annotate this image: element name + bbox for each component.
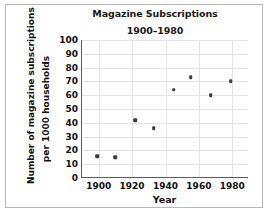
y-tick-label: 10 [54, 159, 78, 169]
gridline-vertical [132, 40, 133, 177]
gridline-vertical [199, 40, 200, 177]
data-point [134, 118, 138, 122]
gridline-vertical [232, 40, 233, 177]
data-point [209, 93, 213, 97]
x-tick-label: 1900 [86, 181, 111, 191]
x-tick-label: 1940 [153, 181, 178, 191]
data-point [152, 127, 156, 131]
y-axis-title: Number of magazine subscriptions per 100… [10, 34, 44, 184]
y-tick-label: 50 [54, 104, 78, 114]
x-tick-label: 1920 [120, 181, 145, 191]
data-point [114, 156, 118, 160]
data-point [189, 75, 193, 79]
gridline-vertical [99, 40, 100, 177]
y-tick-label: 0 [54, 173, 78, 183]
gridline-vertical [166, 40, 167, 177]
y-tick-label: 90 [54, 49, 78, 59]
x-tick-label: 1960 [186, 181, 211, 191]
x-tick-label: 1980 [220, 181, 245, 191]
chart-title: Magazine Subscriptions [55, 8, 255, 19]
data-point [229, 80, 233, 84]
y-tick-label: 40 [54, 118, 78, 128]
plot-area: 0102030405060708090100190019201940196019… [81, 40, 248, 178]
data-point [172, 88, 176, 92]
y-tick-label: 20 [54, 145, 78, 155]
x-axis-title: Year [81, 194, 248, 205]
chart-figure: Magazine Subscriptions 1900–1980 Number … [0, 0, 269, 213]
y-tick-label: 30 [54, 132, 78, 142]
y-tick-label: 60 [54, 90, 78, 100]
data-point [95, 154, 99, 158]
y-tick-label: 80 [54, 63, 78, 73]
y-tick-label: 70 [54, 76, 78, 86]
plot-inner: 0102030405060708090100190019201940196019… [82, 40, 248, 177]
y-tick-label: 100 [54, 35, 78, 45]
